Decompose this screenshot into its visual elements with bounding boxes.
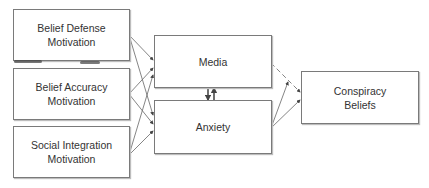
node-conspiracy-beliefs: Conspiracy Beliefs: [301, 71, 419, 124]
scan-artifact: [80, 61, 100, 64]
edge-accuracy-media: [129, 68, 153, 94]
node-label: Social Integration Motivation: [31, 138, 112, 166]
edge-accuracy-anxiety: [129, 94, 153, 124]
node-label: Belief Defense Motivation: [37, 21, 105, 49]
node-label: Belief Accuracy Motivation: [36, 80, 108, 108]
node-belief-defense: Belief Defense Motivation: [13, 9, 130, 61]
node-social-integration: Social Integration Motivation: [13, 126, 130, 178]
node-anxiety: Anxiety: [154, 100, 272, 154]
node-label: Anxiety: [196, 120, 230, 134]
edge-anxiety-conspiracy-1: [271, 82, 288, 128]
node-media: Media: [154, 35, 272, 88]
scan-artifact: [14, 60, 42, 63]
edge-anxiety-conspiracy-2: [271, 100, 300, 128]
node-label: Media: [199, 55, 228, 69]
node-belief-accuracy: Belief Accuracy Motivation: [13, 68, 130, 120]
node-label: Conspiracy Beliefs: [334, 84, 387, 112]
